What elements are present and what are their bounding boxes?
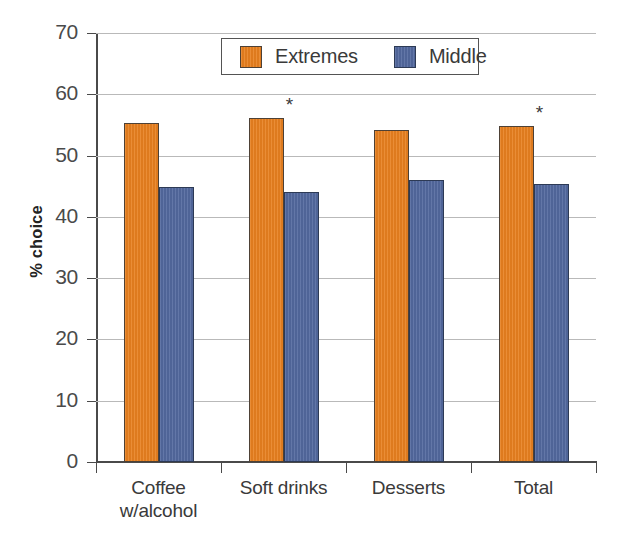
y-tick-label: 30 (8, 265, 78, 289)
x-tick-mark (96, 463, 97, 473)
y-tick-label: 70 (8, 20, 78, 44)
bar-middle (159, 187, 194, 462)
y-tick-label: 20 (8, 326, 78, 350)
x-tick-label-line: Total (471, 476, 596, 499)
y-tick-mark (87, 94, 96, 95)
y-tick-mark (87, 217, 96, 218)
bar-middle (409, 180, 444, 462)
x-tick-label-line: Desserts (346, 476, 471, 499)
x-tick-label: Coffeew/alcohol (96, 476, 221, 522)
bar-chart: % choice 706050403020100 Coffeew/alcohol… (0, 0, 622, 548)
bar-extremes (249, 118, 284, 462)
bar-extremes (499, 126, 534, 462)
chart-legend: Extremes Middle (221, 38, 479, 75)
plot-area (96, 33, 596, 462)
legend-label-middle: Middle (429, 45, 487, 68)
x-tick-mark (596, 463, 597, 473)
y-tick-mark (87, 401, 96, 402)
bar-middle (284, 192, 319, 462)
x-tick-label: Soft drinks (221, 476, 346, 499)
x-tick-label-line: Coffee (96, 476, 221, 499)
y-tick-mark (87, 278, 96, 279)
bar-middle (534, 184, 569, 462)
y-tick-mark (87, 339, 96, 340)
middle-swatch-icon (394, 46, 416, 68)
y-tick-mark (87, 33, 96, 34)
y-tick-label: 60 (8, 81, 78, 105)
x-tick-label: Desserts (346, 476, 471, 499)
y-tick-mark (87, 462, 96, 463)
y-tick-label: 50 (8, 143, 78, 167)
bar-extremes (374, 130, 409, 462)
legend-label-extremes: Extremes (275, 45, 358, 68)
x-tick-label-line: Soft drinks (221, 476, 346, 499)
x-tick-label-line: w/alcohol (96, 499, 221, 522)
x-tick-label: Total (471, 476, 596, 499)
y-tick-label: 40 (8, 204, 78, 228)
significance-asterisk: * (280, 99, 300, 111)
extremes-swatch-icon (240, 46, 262, 68)
x-tick-mark (221, 463, 222, 473)
bar-extremes (124, 123, 159, 462)
gridline (96, 33, 596, 34)
x-tick-mark (346, 463, 347, 473)
legend-item-extremes: Extremes (240, 39, 358, 74)
gridline (96, 94, 596, 95)
x-tick-mark (471, 463, 472, 473)
significance-asterisk: * (530, 107, 550, 119)
y-tick-mark (87, 156, 96, 157)
y-tick-label: 0 (8, 449, 78, 473)
legend-item-middle: Middle (394, 39, 487, 74)
y-tick-label: 10 (8, 388, 78, 412)
